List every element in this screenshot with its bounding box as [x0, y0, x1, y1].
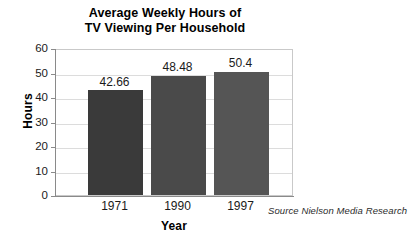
y-tick-label-text: 60: [18, 43, 48, 54]
y-tick-label-text: 20: [18, 141, 48, 152]
x-axis-line: [55, 196, 294, 197]
bar-value-1971: 42.66: [77, 76, 152, 88]
x-axis-title: Year: [55, 219, 293, 233]
bar-1971: [88, 90, 143, 195]
y-tick-label: 50: [18, 68, 48, 79]
bar-1997: [214, 72, 269, 195]
x-tick-label-1997: 1997: [203, 200, 278, 213]
chart-container: Average Weekly Hours of TV Viewing Per H…: [0, 0, 410, 243]
y-tick-label-text: 10: [18, 166, 48, 177]
chart-title-line-2: TV Viewing Per Household: [40, 21, 290, 36]
y-tick-label-text: 40: [18, 92, 48, 103]
bar-1990: [151, 76, 206, 195]
y-axis-title: Hours: [21, 81, 35, 141]
chart-title: Average Weekly Hours of TV Viewing Per H…: [40, 6, 290, 36]
y-tick-label: 30: [18, 117, 48, 128]
y-tick-label: 40: [18, 92, 48, 103]
y-tick-label-text: 0: [18, 190, 48, 201]
y-tick-label: 60: [18, 43, 48, 54]
source-note: Source Nielson Media Research: [268, 205, 407, 216]
y-tick-label: 10: [18, 166, 48, 177]
chart-title-line-1: Average Weekly Hours of: [40, 6, 290, 21]
y-tick-label: 20: [18, 141, 48, 152]
y-tick-label-text: 50: [18, 68, 48, 79]
y-axis-line: [55, 49, 56, 197]
y-tick-label: 0: [18, 190, 48, 201]
y-tick-label-text: 30: [18, 117, 48, 128]
bar-value-1997: 50.4: [203, 57, 278, 69]
